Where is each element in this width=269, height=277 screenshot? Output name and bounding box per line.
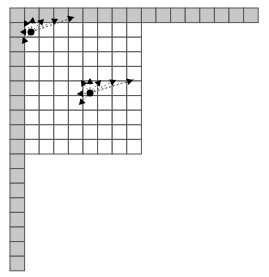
grid-cell (39, 81, 54, 96)
grid-diagram (0, 0, 269, 277)
grid-cell (83, 110, 98, 125)
grid-cell (39, 139, 54, 154)
grid-cell (68, 125, 83, 140)
grid-cell (127, 66, 142, 81)
grid-cell (112, 37, 127, 52)
shaded-column-cell (10, 139, 25, 154)
shaded-row-cell (83, 8, 98, 23)
grid-cell (98, 125, 113, 140)
shaded-row-cell (10, 8, 25, 23)
grid-cell (127, 125, 142, 140)
grid-cell (54, 37, 69, 52)
shaded-row-cell (200, 8, 215, 23)
grid-cell (83, 125, 98, 140)
shaded-row-cell (214, 8, 229, 23)
grid-cell (127, 110, 142, 125)
grid-cell (68, 139, 83, 154)
shaded-column-cell (10, 52, 25, 67)
shaded-column-cell (10, 256, 25, 271)
grid-cell (25, 139, 40, 154)
shaded-column-cell (10, 96, 25, 111)
shaded-column-cell (10, 227, 25, 242)
grid-cell (98, 66, 113, 81)
shaded-row-cell (244, 8, 259, 23)
shaded-column-cell (10, 66, 25, 81)
shaded-column-cell (10, 198, 25, 213)
grid-cell (127, 96, 142, 111)
grid-cell (68, 110, 83, 125)
grid-cell (25, 81, 40, 96)
grid-cell (83, 52, 98, 67)
grid-cell (112, 81, 127, 96)
grid-cell (127, 23, 142, 38)
shaded-column-cell (10, 169, 25, 184)
shaded-column-cell (10, 183, 25, 198)
grid-cell (54, 139, 69, 154)
shaded-row-cell (112, 8, 127, 23)
shaded-row-cell (141, 8, 156, 23)
grid-cell (39, 66, 54, 81)
grid-cell (98, 23, 113, 38)
grid-cell (39, 125, 54, 140)
grid-cell (127, 139, 142, 154)
shaded-column-cell (10, 81, 25, 96)
shaded-column-cell (10, 110, 25, 125)
shaded-row-cell (127, 8, 142, 23)
grid-cell (39, 37, 54, 52)
grid-cell (25, 52, 40, 67)
point-marker (87, 90, 94, 97)
grid-cell (83, 37, 98, 52)
grid-cell (112, 52, 127, 67)
grid-cell (112, 66, 127, 81)
shaded-row-cell (98, 8, 113, 23)
grid-cell (68, 23, 83, 38)
grid-cell (25, 37, 40, 52)
grid-cell (98, 37, 113, 52)
grid-cell (39, 52, 54, 67)
point-marker (28, 29, 35, 36)
grid-cell (54, 23, 69, 38)
grid-cell (68, 52, 83, 67)
grid-cell (83, 23, 98, 38)
grid-cell (98, 139, 113, 154)
grid-cell (98, 96, 113, 111)
shaded-column-cell (10, 125, 25, 140)
grid-cell (39, 96, 54, 111)
grid-cell (68, 37, 83, 52)
shaded-row-cell (185, 8, 200, 23)
grid-cell (25, 125, 40, 140)
grid-cell (112, 110, 127, 125)
grid-cell (112, 96, 127, 111)
grid-cell (39, 110, 54, 125)
grid-cell (68, 66, 83, 81)
grid-cell (112, 125, 127, 140)
shaded-column-cell (10, 154, 25, 169)
grid-cell (98, 52, 113, 67)
shaded-row-cell (156, 8, 171, 23)
grid-cell (98, 110, 113, 125)
grid-cell (54, 110, 69, 125)
shaded-row-cell (171, 8, 186, 23)
grid-cell (112, 139, 127, 154)
grid-cell (83, 139, 98, 154)
shaded-column-cell (10, 242, 25, 257)
grid-cell (54, 66, 69, 81)
grid-cell (54, 96, 69, 111)
grid-cell (54, 81, 69, 96)
grid-cell (25, 96, 40, 111)
grid-cell (54, 125, 69, 140)
shaded-row-cell (229, 8, 244, 23)
grid-cell (127, 37, 142, 52)
grid-cell (127, 52, 142, 67)
grid-cell (25, 66, 40, 81)
shaded-column-cell (10, 37, 25, 52)
grid-cell (25, 110, 40, 125)
grid-cell (112, 23, 127, 38)
grid-cell (54, 52, 69, 67)
shaded-column-cell (10, 212, 25, 227)
shaded-column-cell (10, 23, 25, 38)
